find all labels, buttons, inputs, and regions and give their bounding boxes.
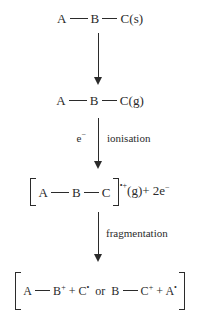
stage-fragments: AB+ + C• or BC+ + A• [0,272,200,310]
fragment-right-bond [123,290,138,291]
fragment-left-radical-dot: • [87,283,90,292]
vaporisation-arrow-head [94,77,102,85]
atom-a-solid: A [57,11,67,26]
molecular-ion-contents: ABC [36,186,112,199]
atom-b-solid: B [91,11,100,26]
bond-bc-ion [84,192,99,193]
ionisation-arrow-head [94,161,102,169]
bond-ab-solid [70,18,88,19]
ionisation-electron-label: e− [44,133,86,144]
atom-b-gas: B [90,93,99,108]
fragmentation-arrow-shaft [98,212,99,255]
fragment-left-charge: + [61,283,66,292]
fragmentation-label: fragmentation [106,228,168,239]
fragment-right-atom-c: C [141,284,149,298]
molecular-ion-bracket-close [113,178,119,206]
fragment-right-radical-dot: • [174,283,177,292]
fragment-right-atom-b: B [111,284,119,298]
fragments-bracket-close [179,272,185,310]
vaporisation-arrow [94,33,103,85]
radical-cation-superscript: •+ [120,182,127,189]
fragments-contents: AB+ + C• or BC+ + A• [21,285,179,297]
ionisation-arrow-shaft [98,118,99,162]
ejected-electrons-charge: − [165,183,170,192]
bond-ab-ion [51,192,69,193]
fragments-conjunction: or [95,284,105,298]
atom-a-ion: A [38,185,48,200]
bond-bc-gas [102,100,117,101]
bond-bc-solid [102,18,117,19]
fragmentation-diagram: { "diagram": { "title": "Ionisation and … [0,0,200,319]
stage-gaseous-molecule: ABC(g) [0,94,200,107]
stage-molecular-ion: ABC•+(g)+ 2e− [0,178,200,206]
state-label-ion: (g) [127,183,142,198]
fragment-left-atom-b: B [53,284,61,298]
fragment-left-bond [35,290,50,291]
bond-ab-gas [69,100,87,101]
electron-charge-superscript: − [81,130,86,139]
atom-b-ion: B [72,185,81,200]
fragment-left-atom-a: A [23,284,32,298]
ionisation-label: ionisation [107,133,150,144]
state-label-solid: (s) [129,11,143,26]
ejected-electrons: + 2e [142,183,165,198]
atom-c-solid: C [120,11,129,26]
ionisation-arrow [94,118,103,170]
atom-c-gas: C [120,93,129,108]
stage-solid-molecule: ABC(s) [0,12,200,25]
fragment-right-charge: + [149,283,154,292]
fragmentation-arrow [94,212,103,264]
fragment-right-radical-fragment: + A [156,284,174,298]
state-label-gas: (g) [129,93,144,108]
fragmentation-arrow-head [94,254,102,262]
fragment-left-radical-fragment: + C [69,284,87,298]
vaporisation-arrow-shaft [98,33,99,78]
atom-a-gas: A [56,93,66,108]
atom-c-ion: C [102,185,111,200]
